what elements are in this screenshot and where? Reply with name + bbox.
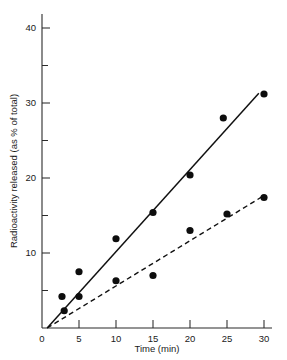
data-point <box>260 194 267 201</box>
data-point <box>223 210 230 217</box>
data-point <box>149 209 156 216</box>
series-lower <box>47 194 267 328</box>
y-axis-ticks <box>42 28 50 291</box>
data-point <box>186 171 193 178</box>
data-series-layer <box>47 90 267 328</box>
y-tick-label: 40 <box>25 22 36 33</box>
data-point <box>260 90 267 97</box>
x-tick-label: 30 <box>259 333 270 344</box>
x-tick-label: 20 <box>185 333 196 344</box>
x-tick-label: 5 <box>76 333 81 344</box>
data-point <box>112 235 119 242</box>
x-tick-label: 10 <box>111 333 122 344</box>
y-tick-label: 20 <box>25 172 36 183</box>
x-tick-label: 0 <box>39 333 44 344</box>
x-tick-label: 25 <box>222 333 233 344</box>
x-axis-title: Time (min) <box>134 343 179 354</box>
data-point <box>149 272 156 279</box>
trend-line-lower <box>47 196 263 328</box>
x-axis-ticks <box>79 320 264 328</box>
y-axis-title: Radioactivity released (as % of total) <box>8 94 19 248</box>
data-point <box>61 307 68 314</box>
axis-lines <box>42 14 272 328</box>
data-point <box>58 293 65 300</box>
data-point <box>112 277 119 284</box>
radioactivity-release-scatter-chart: 10203040 051015202530 Time (min) Radioac… <box>0 0 287 360</box>
data-point <box>75 293 82 300</box>
y-tick-label: 30 <box>25 97 36 108</box>
data-point <box>186 227 193 234</box>
data-point <box>75 268 82 275</box>
data-point <box>220 114 227 121</box>
y-axis-tick-labels: 10203040 <box>25 22 36 258</box>
chart-figure: 10203040 051015202530 Time (min) Radioac… <box>0 0 287 360</box>
series-upper <box>47 90 267 328</box>
y-tick-label: 10 <box>25 247 36 258</box>
